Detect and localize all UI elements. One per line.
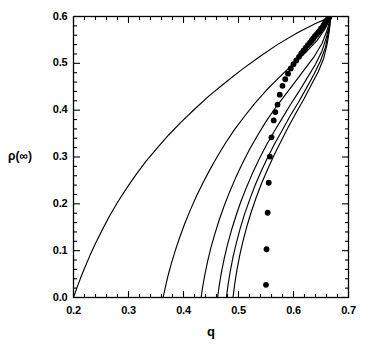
y-axis-label: ρ(∞)	[8, 149, 32, 163]
data-point	[271, 118, 277, 124]
y-tick-label: 0.1	[44, 244, 68, 256]
data-point	[267, 154, 273, 160]
data-point	[269, 134, 275, 140]
scatter-series-data-points	[263, 15, 332, 288]
y-tick-label: 0.3	[44, 150, 68, 162]
data-point	[265, 210, 271, 216]
y-tick-label: 0.5	[44, 56, 68, 68]
line-series-curve-5	[226, 17, 330, 298]
line-series-curve-4	[218, 17, 331, 298]
data-point	[326, 15, 332, 21]
line-series-curve-2	[163, 17, 330, 298]
line-series-curve-1	[74, 17, 331, 298]
figure: 0.20.30.40.50.60.70.00.10.20.30.40.50.6ρ…	[0, 0, 377, 355]
data-point	[285, 71, 291, 77]
line-series-curve-6	[233, 17, 330, 298]
line-series-curve-3	[201, 17, 330, 298]
data-point	[280, 83, 286, 89]
x-axis-label: q	[207, 324, 215, 339]
data-point	[277, 92, 283, 98]
y-tick-label: 0.2	[44, 197, 68, 209]
data-point	[272, 109, 278, 115]
data-point	[282, 76, 288, 82]
x-tick-label: 0.4	[173, 304, 195, 316]
y-tick-label: 0.0	[44, 291, 68, 303]
data-layer	[74, 15, 333, 298]
x-tick-label: 0.7	[338, 304, 360, 316]
x-tick-label: 0.6	[283, 304, 305, 316]
x-tick-label: 0.2	[63, 304, 85, 316]
data-point	[275, 102, 281, 108]
x-tick-label: 0.3	[118, 304, 140, 316]
y-tick-label: 0.6	[44, 10, 68, 22]
data-point	[266, 180, 272, 186]
data-point	[264, 246, 270, 252]
y-tick-label: 0.4	[44, 103, 68, 115]
axis-ticks	[74, 17, 349, 298]
plot-frame	[74, 17, 349, 298]
data-point	[263, 282, 269, 288]
x-tick-label: 0.5	[228, 304, 250, 316]
